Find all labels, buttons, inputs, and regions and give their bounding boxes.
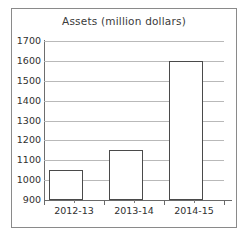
y-tick-label-900: 900 — [23, 195, 41, 205]
x-tick-label-2014-15: 2014-15 — [154, 206, 234, 216]
gridline-1700 — [44, 41, 224, 42]
x-axis-tail — [224, 200, 232, 201]
y-tick-label-1500: 1500 — [17, 76, 41, 86]
plot-area — [44, 41, 224, 200]
y-tick-label-1300: 1300 — [17, 116, 41, 126]
x-major-tick-1 — [164, 200, 165, 205]
x-minor-tick-1 — [134, 200, 135, 203]
y-tick-label-1400: 1400 — [17, 96, 41, 106]
x-minor-tick-2 — [194, 200, 195, 203]
x-major-tick-origin — [44, 200, 45, 205]
y-axis-tick-labels: 90010001100120013001400150016001700 — [0, 0, 41, 237]
x-major-tick-0 — [104, 200, 105, 205]
bar-2014-15 — [169, 61, 203, 200]
y-tick-label-1000: 1000 — [17, 175, 41, 185]
chart-title: Assets (million dollars) — [12, 15, 236, 27]
bar-2012-13 — [49, 170, 83, 200]
y-tick-label-1200: 1200 — [17, 135, 41, 145]
y-tick-label-1700: 1700 — [17, 36, 41, 46]
bar-2013-14 — [109, 150, 143, 200]
y-tick-label-1600: 1600 — [17, 56, 41, 66]
y-tick-label-1100: 1100 — [17, 155, 41, 165]
x-minor-tick-0 — [74, 200, 75, 203]
